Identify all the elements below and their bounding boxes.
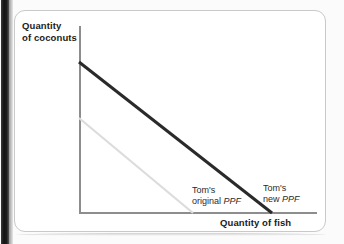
annotation-new-line2-prefix: new (263, 194, 282, 204)
y-axis-label-line2: of coconuts (22, 32, 77, 43)
curve-new-ppf (79, 62, 272, 213)
curve-original-ppf (79, 118, 193, 213)
annotation-original-line2-prefix: original (192, 196, 224, 206)
annotation-original-line1: Tom's (192, 185, 215, 195)
y-axis-label-line1: Quantity (22, 20, 61, 31)
x-axis-label: Quantity of fish (220, 217, 291, 229)
figure-root: Quantityof coconuts Quantity of fish Tom… (0, 0, 344, 244)
annotation-new-line1: Tom's (263, 183, 286, 193)
annotation-new-ppf-abbr: PPF (282, 194, 300, 204)
y-axis-label: Quantityof coconuts (22, 20, 77, 43)
plot-area: Quantityof coconuts Quantity of fish Tom… (0, 0, 344, 244)
annotation-new-ppf: Tom's new PPF (263, 183, 300, 205)
annotation-original-ppf-abbr: PPF (224, 196, 242, 206)
annotation-original-ppf: Tom's original PPF (192, 185, 241, 207)
